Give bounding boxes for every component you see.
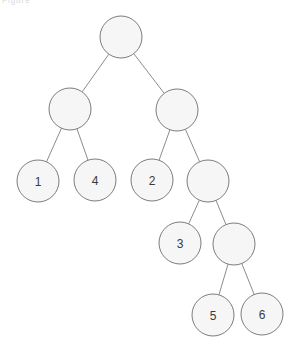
tree-edge	[189, 200, 200, 224]
tree-node-label: 6	[259, 308, 266, 322]
tree-edge	[82, 54, 109, 92]
tree-edge	[242, 264, 254, 295]
tree-edge	[216, 200, 226, 224]
tree-node-layer: 142356	[17, 16, 283, 336]
tree-edge	[77, 129, 88, 160]
tree-edge	[219, 264, 228, 295]
tree-node-circle-empty[interactable]	[49, 88, 91, 130]
tree-node[interactable]	[187, 160, 229, 202]
tree-node[interactable]: 2	[131, 159, 173, 201]
tree-node[interactable]: 1	[17, 160, 59, 202]
tree-node-label: 1	[35, 175, 42, 189]
binary-tree-diagram: 142356	[0, 0, 301, 352]
tree-node-label: 5	[210, 309, 217, 323]
tree-edge	[134, 54, 164, 94]
tree-node-label: 4	[92, 174, 99, 188]
tree-node[interactable]	[156, 89, 198, 131]
tree-node-circle-empty[interactable]	[100, 16, 142, 58]
tree-edge	[159, 130, 170, 160]
tree-node-label: 3	[177, 237, 184, 251]
tree-edge	[185, 129, 199, 162]
tree-node-circle-empty[interactable]	[187, 160, 229, 202]
tree-node[interactable]: 3	[159, 222, 201, 264]
tree-node-circle-empty[interactable]	[156, 89, 198, 131]
tree-node[interactable]	[213, 223, 255, 265]
tree-node[interactable]	[100, 16, 142, 58]
tree-node[interactable]	[49, 88, 91, 130]
tree-node[interactable]: 6	[241, 293, 283, 335]
tree-node[interactable]: 4	[74, 159, 116, 201]
tree-node[interactable]: 5	[192, 294, 234, 336]
tree-edge	[47, 128, 62, 162]
tree-node-label: 2	[149, 174, 156, 188]
tree-node-circle-empty[interactable]	[213, 223, 255, 265]
